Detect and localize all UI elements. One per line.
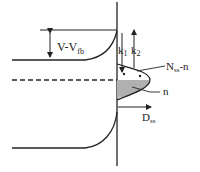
n-label: n [163, 85, 169, 97]
v-vfb-label: V-Vfb [57, 40, 84, 56]
dss-label: Dss [142, 111, 156, 125]
k1-label: k1 [118, 44, 128, 58]
valence-band-curve [12, 112, 117, 148]
nss-n-leader [137, 66, 165, 71]
state-dot [123, 73, 125, 75]
state-dot [139, 75, 141, 77]
k2-label: k2 [131, 44, 141, 58]
nss-n-label: Nss-n [166, 60, 189, 74]
occupied-states-shaded [117, 80, 150, 98]
band-diagram: V-Vfb k1 k2 Nss-n n Dss [0, 0, 200, 172]
